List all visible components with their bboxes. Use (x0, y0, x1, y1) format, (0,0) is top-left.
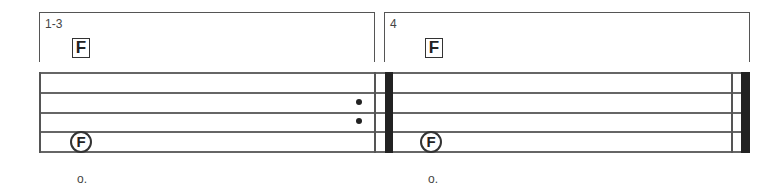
rehearsal-mark-1: F (72, 38, 90, 58)
repeat-dot-upper (356, 99, 362, 105)
measure-label-2: 4 (390, 17, 397, 31)
final-thin-barline (731, 72, 733, 153)
under-text-2: o. (428, 172, 438, 186)
note-circle-2: F (420, 131, 442, 153)
repeat-thin-barline (374, 72, 376, 153)
repeat-dot-lower (356, 118, 362, 124)
final-thick-barline (741, 72, 750, 153)
staff-line-4 (39, 131, 750, 133)
note-circle-1: F (70, 131, 92, 153)
under-text-1: o. (77, 172, 87, 186)
repeat-thick-barline (385, 72, 393, 153)
staff-line-5 (39, 151, 750, 153)
rehearsal-mark-2: F (425, 38, 443, 58)
staff-line-3 (39, 112, 750, 114)
start-barline (39, 72, 41, 153)
measure-label-1: 1-3 (45, 17, 62, 31)
staff-line-2 (39, 92, 750, 94)
staff-line-1 (39, 72, 750, 74)
